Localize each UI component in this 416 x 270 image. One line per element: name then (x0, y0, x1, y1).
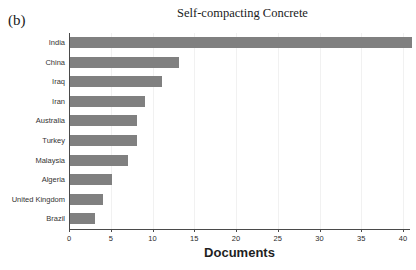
bar (70, 135, 137, 146)
bar (70, 174, 112, 185)
x-tick-label: 5 (99, 234, 123, 243)
bar (70, 115, 137, 126)
x-tick-mark (236, 229, 237, 232)
bar-row (70, 72, 411, 92)
bar-row (70, 33, 411, 53)
figure-panel-b: (b) Self-compacting Concrete IndiaChinaI… (0, 0, 416, 270)
bar (70, 57, 179, 68)
y-axis-category-label: Algeria (0, 170, 65, 190)
y-axis-category-labels: IndiaChinaIraqIranAustraliaTurkeyMalaysi… (0, 33, 65, 229)
chart-title: Self-compacting Concrete (69, 6, 416, 21)
x-tick-label: 10 (141, 234, 165, 243)
bar (70, 96, 145, 107)
x-tick-mark (361, 229, 362, 232)
x-tick-mark (278, 229, 279, 232)
y-axis-category-label: China (0, 53, 65, 73)
x-tick-mark (153, 229, 154, 232)
bar-row (70, 151, 411, 171)
panel-label: (b) (8, 13, 26, 28)
bar (70, 213, 95, 224)
bar-row (70, 190, 411, 210)
y-axis-line (69, 33, 70, 229)
y-axis-category-label: India (0, 33, 65, 53)
bar (70, 37, 412, 48)
x-tick-mark (194, 229, 195, 232)
bar-row (70, 131, 411, 151)
y-axis-category-label: Iraq (0, 72, 65, 92)
x-axis-title: Documents (69, 245, 410, 260)
x-tick-mark (111, 229, 112, 232)
bar-row (70, 53, 411, 73)
bar-row (70, 92, 411, 112)
x-tick-mark (403, 229, 404, 232)
bar-row (70, 111, 411, 131)
y-axis-category-label: Malaysia (0, 151, 65, 171)
x-tick-label: 30 (308, 234, 332, 243)
y-axis-category-label: Australia (0, 111, 65, 131)
bar (70, 76, 162, 87)
x-axis-line (69, 229, 410, 230)
x-tick-label: 15 (182, 234, 206, 243)
x-tick-label: 25 (266, 234, 290, 243)
y-axis-category-label: Turkey (0, 131, 65, 151)
x-tick-label: 40 (391, 234, 415, 243)
x-tick-mark (69, 229, 70, 232)
x-tick-label: 20 (224, 234, 248, 243)
y-axis-category-label: United Kingdom (0, 190, 65, 210)
x-tick-label: 0 (57, 234, 81, 243)
x-tick-mark (320, 229, 321, 232)
bar (70, 194, 103, 205)
bar (70, 155, 128, 166)
plot-area: 0510152025303540 (69, 33, 410, 229)
y-axis-category-label: Iran (0, 92, 65, 112)
y-axis-category-label: Brazil (0, 209, 65, 229)
x-tick-label: 35 (349, 234, 373, 243)
bar-row (70, 209, 411, 229)
bar-row (70, 170, 411, 190)
